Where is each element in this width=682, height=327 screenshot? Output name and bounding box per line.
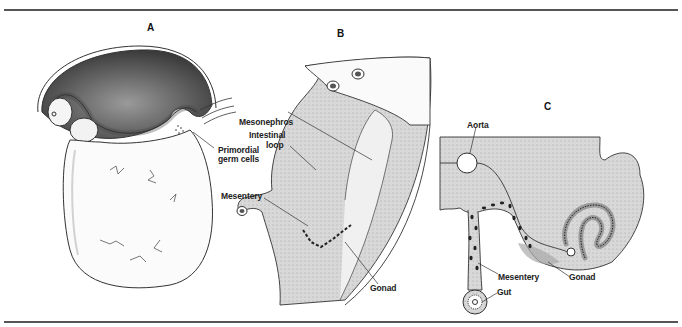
- label-aorta: Aorta: [467, 121, 489, 130]
- label-primordial-germ-cells-2: germ cells: [218, 155, 259, 164]
- panel-a-drawing: [38, 46, 236, 288]
- label-gonad-c: Gonad: [569, 273, 595, 282]
- label-mesentery-b: Mesentery: [221, 192, 262, 201]
- label-mesonephros: Mesonephros: [239, 118, 293, 127]
- panel-b-drawing: [237, 57, 431, 305]
- label-intestinal-loop-2: loop: [266, 141, 284, 150]
- panel-label-a: A: [147, 22, 154, 33]
- label-gut: Gut: [497, 288, 511, 297]
- panel-label-c: C: [544, 101, 551, 112]
- label-intestinal-loop-1: Intestinal: [249, 131, 285, 140]
- panel-c-drawing: [440, 127, 644, 314]
- figure-frame: A B C Primordial germ cells Mesonephros …: [0, 0, 682, 327]
- label-gonad-b: Gonad: [370, 284, 396, 293]
- label-mesentery-c: Mesentery: [498, 273, 539, 282]
- panel-label-b: B: [337, 28, 344, 39]
